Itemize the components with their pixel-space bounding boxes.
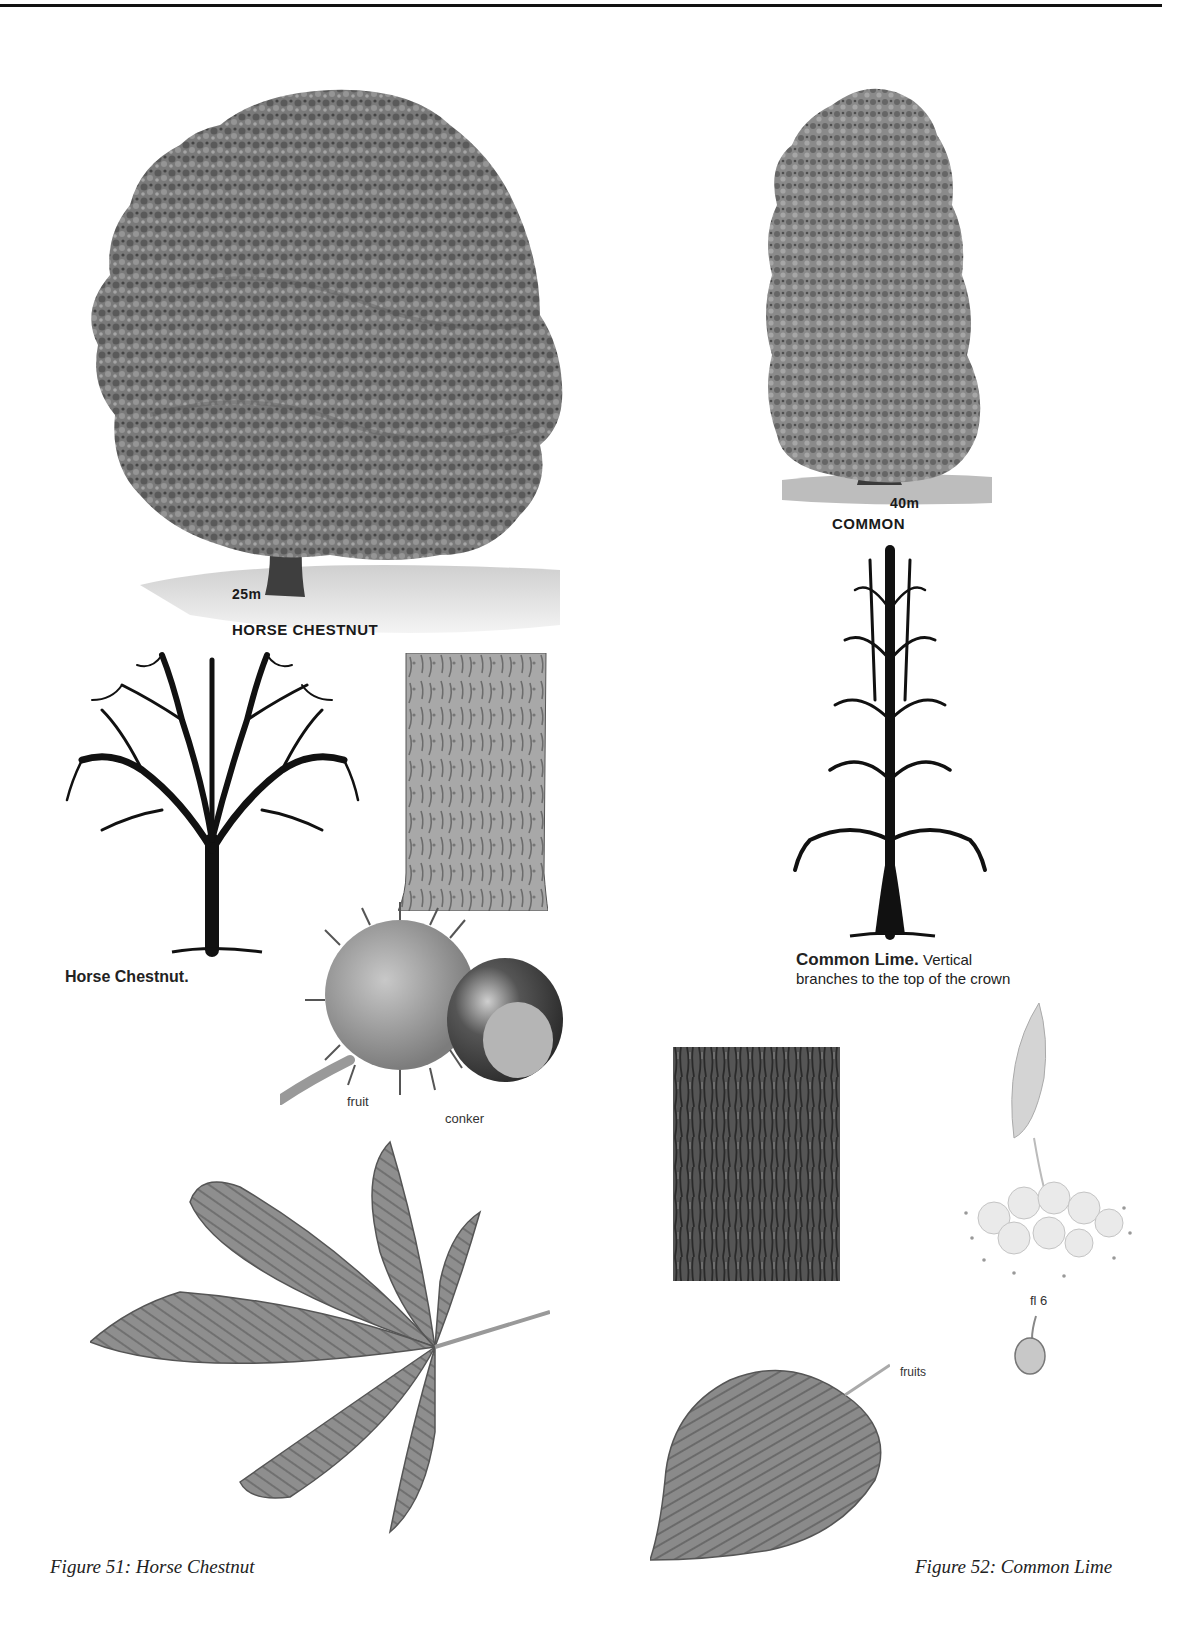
horse-chestnut-compound-leaf bbox=[90, 1132, 550, 1542]
common-lime-winter-silhouette bbox=[790, 540, 990, 940]
horse-chestnut-height-label: 25m bbox=[232, 586, 262, 602]
common-lime-description: Common Lime. Vertical branches to the to… bbox=[796, 950, 1036, 988]
horse-chestnut-fruit-illustration bbox=[280, 900, 570, 1110]
horse-chestnut-name-label: HORSE CHESTNUT bbox=[232, 621, 378, 638]
common-lime-name-label: COMMON bbox=[832, 515, 905, 532]
fruit-label: fruit bbox=[347, 1094, 369, 1109]
common-lime-fruit bbox=[1010, 1314, 1050, 1376]
horse-chestnut-summer-tree bbox=[70, 85, 570, 640]
common-lime-description-title: Common Lime. bbox=[796, 950, 919, 969]
fruits-label: fruits bbox=[900, 1365, 926, 1379]
common-lime-height-label: 40m bbox=[890, 495, 920, 511]
conker-label: conker bbox=[445, 1111, 484, 1126]
top-rule bbox=[0, 4, 1162, 7]
common-lime-flower-cluster bbox=[954, 998, 1138, 1283]
horse-chestnut-bark bbox=[398, 653, 548, 911]
flower-label: fl 6 bbox=[1030, 1293, 1047, 1308]
figure-51-caption: Figure 51: Horse Chestnut bbox=[50, 1556, 255, 1578]
common-lime-bark bbox=[673, 1047, 840, 1281]
horse-chestnut-winter-label: Horse Chestnut. bbox=[65, 968, 189, 986]
common-lime-heart-leaf bbox=[650, 1360, 890, 1570]
common-lime-summer-tree bbox=[762, 75, 994, 515]
figure-52-caption: Figure 52: Common Lime bbox=[915, 1556, 1112, 1578]
